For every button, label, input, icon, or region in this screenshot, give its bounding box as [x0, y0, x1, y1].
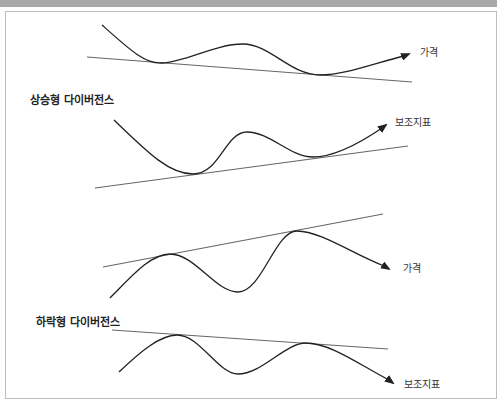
- bearish-indicator-panel: [112, 330, 393, 383]
- bullish-indicator-trendline: [95, 146, 408, 188]
- bearish-price-panel: [103, 214, 389, 298]
- bearish-indicator-trendline: [112, 330, 388, 349]
- bullish-price-curve: [102, 25, 409, 75]
- bearish-divergence-title: 하락형 다이버전스: [36, 313, 120, 329]
- bullish-indicator-curve: [114, 120, 386, 174]
- bearish-price-curve: [110, 231, 389, 298]
- bullish-indicator-panel: [95, 120, 408, 188]
- bearish-indicator-label: 보조지표: [404, 376, 440, 391]
- bullish-indicator-label: 보조지표: [395, 114, 431, 129]
- bullish-price-trendline: [87, 57, 412, 82]
- divergence-diagram: [0, 0, 503, 404]
- bullish-price-panel: [87, 25, 412, 82]
- bullish-divergence-title: 상승형 다이버전스: [30, 91, 114, 107]
- bullish-price-label: 가격: [420, 44, 438, 59]
- bearish-price-trendline: [103, 214, 383, 267]
- bearish-indicator-curve: [119, 335, 393, 383]
- bearish-price-label: 가격: [403, 260, 421, 275]
